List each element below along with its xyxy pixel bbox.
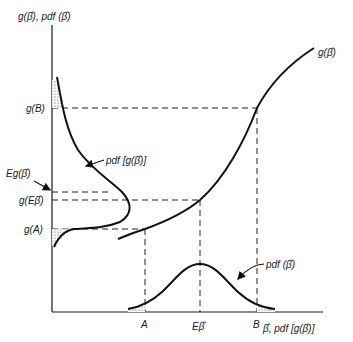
y-label-EgB: Eg(β̂) [6,168,31,179]
pdf-b-curve [128,264,275,309]
pdf-g-label: pdf [g(β̂)] [105,155,146,166]
g-curve [118,48,314,239]
x-label-A: A [140,319,148,330]
y-label-gB: g(B) [26,103,45,114]
y-axis-label: g(β̂), pdf (β̂) [18,11,71,22]
x-label-EB: Eβ̂ [192,321,206,332]
EgB-arrow-icon [34,181,50,190]
g-curve-label: g(β̂) [318,47,336,58]
y-label-gEB: g(Eβ̂) [19,195,44,206]
pdf-b-label: pdf (β̂) [265,259,295,270]
y-label-gA: g(A) [24,224,43,235]
transformation-diagram: g(β̂), pdf (β̂) β̂, pdf [g(β̂)] g(B) Eg(… [0,0,353,342]
x-label-B: B [253,319,260,330]
pdf-b-arrow-icon [238,264,264,279]
x-axis-label: β̂, pdf [g(β̂)] [262,323,315,334]
